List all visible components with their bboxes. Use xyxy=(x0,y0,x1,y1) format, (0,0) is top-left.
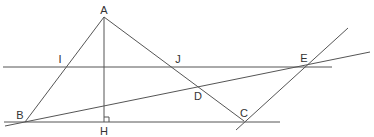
point-label-C: C xyxy=(240,108,248,119)
point-label-I: I xyxy=(58,54,61,65)
line-CE xyxy=(236,28,348,130)
point-label-A: A xyxy=(100,5,107,16)
point-label-B: B xyxy=(16,110,23,121)
point-label-J: J xyxy=(175,54,181,65)
point-label-H: H xyxy=(100,126,108,137)
point-label-D: D xyxy=(194,91,202,102)
segment-AC xyxy=(104,17,244,121)
geometry-diagram: A B C D E H I J xyxy=(0,0,374,137)
segment-AB xyxy=(25,17,104,122)
point-label-E: E xyxy=(300,53,307,64)
diagram-svg xyxy=(0,0,374,137)
right-angle-marker-icon xyxy=(104,117,109,122)
